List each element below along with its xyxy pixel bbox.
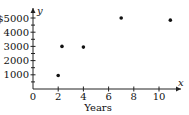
data-point xyxy=(119,16,123,20)
data-point xyxy=(60,45,64,49)
data-point xyxy=(82,45,86,49)
x-tick-label: 0 xyxy=(30,91,36,102)
y-tick-label: $5000 xyxy=(0,13,29,24)
x-tick-label: 4 xyxy=(80,91,86,102)
y-tick-label: 2000 xyxy=(4,55,29,66)
data-points xyxy=(56,16,172,77)
y-axis-arrow-icon xyxy=(31,8,36,13)
x-axis-label: Years xyxy=(83,102,112,113)
y-tick-label: 1000 xyxy=(4,69,29,80)
x-tick-label: 6 xyxy=(105,91,111,102)
scatter-chart: 02468101000200030004000$5000 Years x y xyxy=(0,0,189,115)
x-tick-label: 10 xyxy=(153,91,166,102)
y-tick-label: 4000 xyxy=(4,27,29,38)
data-point xyxy=(56,74,60,78)
y-axis-variable: y xyxy=(36,5,43,16)
data-point xyxy=(169,18,173,22)
x-tick-label: 2 xyxy=(55,91,61,102)
axes: 02468101000200030004000$5000 xyxy=(0,8,181,102)
y-tick-label: 3000 xyxy=(4,41,29,52)
x-tick-label: 8 xyxy=(131,91,137,102)
x-axis-variable: x xyxy=(178,77,184,88)
